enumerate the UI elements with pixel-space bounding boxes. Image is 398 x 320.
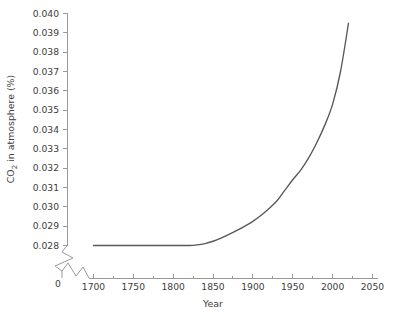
x-tick-label: 1750 bbox=[122, 281, 146, 292]
y-tick-label: 0.036 bbox=[33, 85, 59, 96]
y-axis-tick-labels: 0.040 0.039 0.038 0.037 0.036 0.035 0.03… bbox=[33, 8, 59, 251]
y-tick-label: 0.039 bbox=[33, 27, 59, 38]
y-tick-label: 0.031 bbox=[33, 182, 59, 193]
x-axis-title: Year bbox=[202, 298, 223, 309]
x-axis-break-zigzag bbox=[62, 263, 89, 278]
y-tick-label: 0.030 bbox=[33, 201, 59, 212]
x-tick-label: 2050 bbox=[361, 281, 385, 292]
y-tick-label: 0.035 bbox=[33, 104, 59, 115]
x-tick-label: 1900 bbox=[241, 281, 265, 292]
chart-canvas: 0.040 0.039 0.038 0.037 0.036 0.035 0.03… bbox=[0, 0, 398, 320]
y-tick-label: 0.038 bbox=[33, 46, 59, 57]
x-tick-label: 1800 bbox=[162, 281, 186, 292]
co2-line-chart: 0.040 0.039 0.038 0.037 0.036 0.035 0.03… bbox=[0, 0, 398, 320]
x-axis-tick-labels: 1700 1750 1800 1850 1900 1950 2000 2050 bbox=[82, 281, 384, 292]
y-tick-label: 0.033 bbox=[33, 143, 59, 154]
x-tick-label: 1700 bbox=[82, 281, 106, 292]
x-tick-label: 1950 bbox=[281, 281, 305, 292]
origin-zero-label: 0 bbox=[55, 278, 61, 289]
y-axis-title-post: in atmosphere (%) bbox=[5, 75, 16, 165]
y-axis-title-pre: CO bbox=[5, 169, 16, 183]
y-tick-label: 0.040 bbox=[33, 8, 59, 19]
y-tick-label: 0.028 bbox=[33, 240, 59, 251]
y-axis-title: CO2 in atmosphere (%) bbox=[5, 75, 19, 183]
co2-series-line bbox=[94, 23, 349, 245]
x-tick-label: 1850 bbox=[201, 281, 225, 292]
y-tick-label: 0.034 bbox=[33, 124, 59, 135]
x-tick-label: 2000 bbox=[321, 281, 345, 292]
y-tick-label: 0.032 bbox=[33, 162, 59, 173]
y-axis-ticks bbox=[63, 14, 68, 246]
y-tick-label: 0.029 bbox=[33, 220, 59, 231]
y-tick-label: 0.037 bbox=[33, 66, 59, 77]
